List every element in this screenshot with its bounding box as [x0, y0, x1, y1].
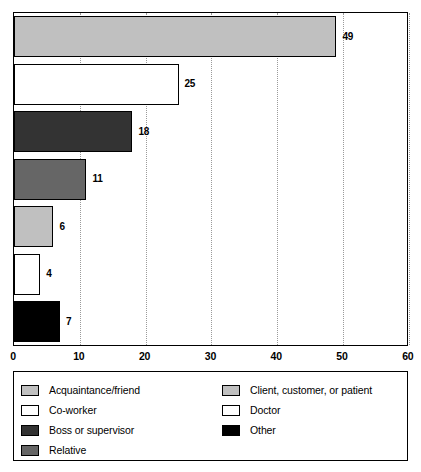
- bar-3[interactable]: [14, 111, 132, 152]
- bar-value-label: 11: [92, 174, 102, 184]
- legend-label: Relative: [49, 445, 86, 456]
- bar-value-label: 4: [46, 269, 51, 279]
- legend-label: Other: [250, 425, 276, 436]
- legend-item[interactable]: Boss or supervisor: [21, 420, 140, 440]
- bar-chart: 49251811647 0102030405060 Acquaintance/f…: [0, 0, 421, 472]
- bar-row: 49: [14, 16, 407, 57]
- legend-item[interactable]: Doctor: [222, 400, 372, 420]
- legend-item[interactable]: Client, customer, or patient: [222, 380, 372, 400]
- x-tick-60: 60: [402, 349, 413, 363]
- x-tick-10: 10: [73, 349, 84, 363]
- legend-column-right: Client, customer, or patientDoctorOther: [222, 380, 372, 440]
- bar-value-label: 25: [185, 79, 196, 89]
- legend-item[interactable]: Other: [222, 420, 372, 440]
- bar-value-label: 49: [342, 32, 353, 42]
- bars-layer: 49251811647: [14, 13, 407, 345]
- legend-swatch-icon: [21, 445, 39, 456]
- bar-value-label: 6: [59, 222, 64, 232]
- legend-item[interactable]: Co-worker: [21, 400, 140, 420]
- bar-2[interactable]: [14, 64, 179, 105]
- x-axis-tick-labels: 0102030405060: [0, 349, 421, 365]
- plot-area: 49251811647: [13, 12, 408, 346]
- legend-swatch-icon: [222, 385, 240, 396]
- x-tick-40: 40: [271, 349, 282, 363]
- bar-6[interactable]: [14, 254, 40, 295]
- legend: Acquaintance/friendCo-workerBoss or supe…: [13, 371, 408, 461]
- bar-row: 11: [14, 159, 407, 200]
- bar-7[interactable]: [14, 301, 60, 342]
- legend-swatch-icon: [21, 405, 39, 416]
- bar-1[interactable]: [14, 16, 336, 57]
- legend-label: Client, customer, or patient: [250, 385, 372, 396]
- x-tick-30: 30: [205, 349, 216, 363]
- x-tick-50: 50: [336, 349, 347, 363]
- bar-value-label: 7: [66, 317, 71, 327]
- legend-swatch-icon: [222, 405, 240, 416]
- legend-column-left: Acquaintance/friendCo-workerBoss or supe…: [21, 380, 140, 460]
- legend-swatch-icon: [21, 425, 39, 436]
- bar-row: 7: [14, 301, 407, 342]
- bar-5[interactable]: [14, 206, 53, 247]
- legend-label: Boss or supervisor: [49, 425, 134, 436]
- legend-item[interactable]: Relative: [21, 440, 140, 460]
- legend-label: Doctor: [250, 405, 280, 416]
- legend-item[interactable]: Acquaintance/friend: [21, 380, 140, 400]
- bar-4[interactable]: [14, 159, 86, 200]
- bar-row: 18: [14, 111, 407, 152]
- x-tick-0: 0: [10, 349, 16, 363]
- bar-row: 6: [14, 206, 407, 247]
- legend-label: Acquaintance/friend: [49, 385, 140, 396]
- legend-swatch-icon: [222, 425, 240, 436]
- bar-row: 25: [14, 64, 407, 105]
- bar-row: 4: [14, 254, 407, 295]
- gridline-60: [409, 13, 410, 345]
- legend-swatch-icon: [21, 385, 39, 396]
- bar-value-label: 18: [138, 127, 149, 137]
- x-tick-20: 20: [139, 349, 150, 363]
- legend-label: Co-worker: [49, 405, 97, 416]
